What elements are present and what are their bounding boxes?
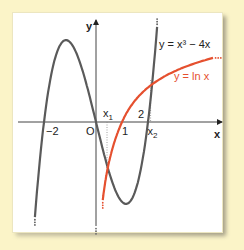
continuation-dot [102,202,104,204]
continuation-dot [156,21,158,23]
x-axis-label: x [214,128,221,140]
continuation-dot [95,230,97,232]
x1-label: x1 [103,107,114,122]
continuation-dot [102,204,104,206]
continuation-dot [215,57,217,59]
continuation-dot [102,207,104,209]
continuation-dot [34,224,36,226]
continuation-dot [220,57,222,59]
x-tick-label: 1 [122,125,128,137]
continuation-dot [217,57,219,59]
continuation-dot [95,228,97,230]
function-graph: y x O −2 1 2 x1 x2 y = x³ − 4x y = ln x [0,0,244,250]
x-tick-label: −2 [46,125,59,137]
ln-legend: y = ln x [174,70,210,82]
y-axis-label: y [86,20,93,32]
continuation-dot [156,18,158,20]
continuation-dot [34,219,36,221]
origin-label: O [86,125,95,137]
cubic-legend: y = x³ − 4x [159,38,211,50]
continuation-dot [95,233,97,235]
x-tick-label: 2 [138,108,144,120]
continuation-dot [34,221,36,223]
x2-label: x2 [148,125,159,140]
continuation-dot [156,23,158,25]
